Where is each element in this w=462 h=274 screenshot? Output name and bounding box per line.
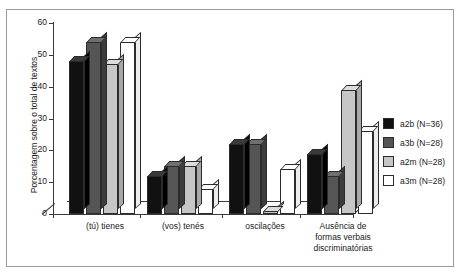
bar-side-face: [295, 169, 301, 214]
bar-side-face: [373, 131, 379, 214]
bar-side-face: [356, 90, 362, 214]
x-axis-category-label: (tú) tienes: [60, 221, 150, 232]
x-axis-category-label-line: Ausência de: [298, 221, 388, 232]
x-axis-category-label: (vos) tenés: [138, 221, 228, 232]
legend-item-a3m[interactable]: a3m (N=28): [383, 171, 462, 190]
bar-side-face: [101, 42, 107, 214]
x-axis-category-label: Ausência deformas verbaisdiscriminatória…: [298, 221, 388, 254]
bar-side-face: [196, 166, 202, 214]
bar-a2b-group-2: [147, 176, 162, 214]
legend-item-label: a2m (N=28): [400, 157, 445, 167]
figure-frame: 0102030405060 Porcentagem sobre o total …: [6, 9, 454, 267]
bar-front-face: [280, 169, 295, 214]
legend-item-a2b[interactable]: a2b (N=36): [383, 114, 462, 133]
chart-legend: a2b (N=36)a3b (N=28)a2m (N=28)a3m (N=28): [383, 114, 462, 190]
legend-swatch-icon: [383, 137, 394, 148]
x-axis-category-label-line: discriminatórias: [298, 243, 388, 254]
figure-top-caption: [110, 0, 370, 3]
bar-side-face: [244, 144, 250, 214]
bar-side-face: [213, 189, 219, 214]
bar-a2b-group-3: [229, 144, 244, 214]
bar-front-face: [69, 61, 84, 214]
bar-side-face: [322, 154, 328, 214]
bar-side-face: [179, 166, 185, 214]
x-axis-category-label-line: formas verbais: [298, 232, 388, 243]
bar-side-face: [162, 176, 168, 214]
bar-front-face: [147, 176, 162, 214]
legend-swatch-icon: [383, 156, 394, 167]
legend-item-label: a3m (N=28): [400, 176, 445, 186]
chart-plot-area: 0102030405060 Porcentagem sobre o total …: [7, 10, 455, 268]
legend-item-label: a2b (N=36): [400, 119, 443, 129]
x-axis-category-label-line: oscilações: [220, 221, 310, 232]
bar-a2b-group-1: [69, 61, 84, 214]
bar-side-face: [278, 211, 284, 214]
bar-side-face: [118, 64, 124, 214]
bar-side-face: [261, 144, 267, 214]
bar-side-face: [135, 42, 141, 214]
legend-item-a2m[interactable]: a2m (N=28): [383, 152, 462, 171]
legend-item-a3b[interactable]: a3b (N=28): [383, 133, 462, 152]
bar-a2b-group-4: [307, 154, 322, 214]
x-axis-category-labels: (tú) tienes(vos) tenésoscilaçõesAusência…: [7, 221, 387, 269]
legend-swatch-icon: [383, 175, 394, 186]
x-axis-category-label-line: (tú) tienes: [60, 221, 150, 232]
bar-side-face: [339, 176, 345, 214]
bar-a3m-group-3: [280, 169, 295, 214]
bar-side-face: [84, 61, 90, 214]
x-axis-category-label-line: (vos) tenés: [138, 221, 228, 232]
legend-item-label: a3b (N=28): [400, 138, 443, 148]
figure-root: 0102030405060 Porcentagem sobre o total …: [0, 0, 462, 274]
bar-front-face: [229, 144, 244, 214]
legend-swatch-icon: [383, 118, 394, 129]
bar-front-face: [307, 154, 322, 214]
x-axis-category-label: oscilações: [220, 221, 310, 232]
